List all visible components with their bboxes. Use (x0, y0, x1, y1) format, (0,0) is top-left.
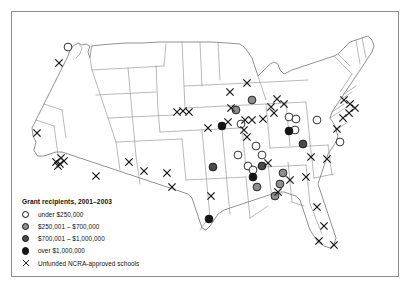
legend-label: $250,001 – $700,000 (38, 223, 99, 230)
map-marker-circle (248, 96, 256, 104)
map-marker-x (339, 114, 346, 121)
map-marker-circle (253, 183, 261, 191)
legend-swatch (22, 223, 29, 230)
map-marker-circle (249, 173, 257, 181)
legend-row: Unfunded NCRA-approved schools (22, 257, 200, 269)
map-marker-circle (209, 163, 217, 171)
map-marker-circle (64, 43, 72, 51)
map-marker-circle (279, 169, 287, 177)
legend-row: $250,001 – $700,000 (22, 220, 200, 232)
map-marker-circle (271, 192, 279, 200)
map-marker-circle (285, 113, 293, 121)
map-marker-x (55, 59, 62, 66)
map-marker-circle (292, 115, 300, 123)
open-circle-icon (22, 208, 36, 220)
map-figure: Grant recipients, 2001–2003 under $250,0… (0, 0, 411, 289)
legend-title: Grant recipients, 2001–2003 (22, 198, 200, 205)
black-circle-icon (22, 245, 36, 257)
map-marker-circle (252, 142, 260, 150)
legend-swatch (22, 211, 29, 218)
map-marker-circle (336, 138, 344, 146)
map-marker-x (351, 104, 358, 111)
legend-label: over $1,000,000 (38, 247, 85, 254)
legend-entries: under $250,000$250,001 – $700,000$700,00… (22, 208, 200, 269)
map-marker-x (92, 172, 99, 179)
map-marker-circle (218, 122, 226, 130)
map-marker-x (57, 154, 64, 161)
map-marker-circle (234, 151, 242, 159)
map-legend: Grant recipients, 2001–2003 under $250,0… (22, 198, 200, 269)
legend-swatch (22, 235, 29, 242)
map-marker-circle (313, 116, 321, 124)
map-marker-circle (205, 215, 213, 223)
legend-row: over $1,000,000 (22, 245, 200, 257)
map-marker-circle (276, 180, 284, 188)
legend-row: $700,001 – $1,000,000 (22, 233, 200, 245)
legend-swatch (22, 247, 29, 254)
map-marker-circle (299, 140, 307, 148)
legend-label: Unfunded NCRA-approved schools (38, 260, 139, 267)
gray-circle-icon (22, 220, 36, 232)
x-mark-icon (22, 257, 36, 269)
map-marker-x (346, 100, 353, 107)
legend-label: $700,001 – $1,000,000 (38, 235, 105, 242)
map-marker-x (345, 109, 352, 116)
map-marker-circle (258, 151, 266, 159)
legend-label: under $250,000 (38, 211, 83, 218)
map-marker-circle (285, 127, 293, 135)
dark-gray-circle-icon (22, 233, 36, 245)
legend-row: under $250,000 (22, 208, 200, 220)
